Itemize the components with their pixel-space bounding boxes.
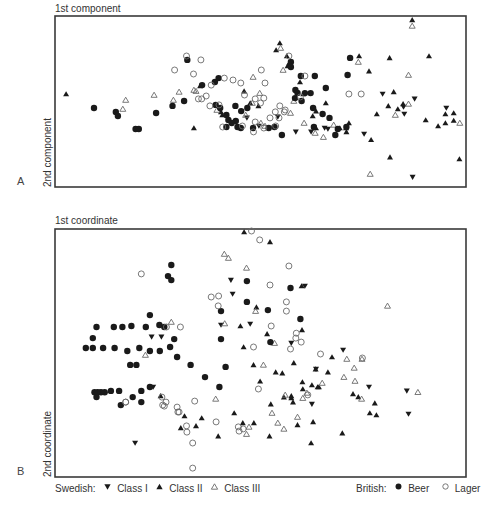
point-british-beer (232, 103, 238, 109)
point-british-beer (124, 348, 130, 354)
point-british-beer (130, 394, 136, 400)
point-swedish-class-ii (277, 40, 283, 45)
point-swedish-class-i (247, 322, 253, 327)
point-swedish-class-ii (395, 106, 401, 111)
legend-lager: Lager (455, 483, 481, 494)
point-swedish-class-ii (299, 379, 305, 384)
point-british-beer (111, 345, 117, 351)
point-swedish-class-ii (231, 410, 237, 415)
point-british-beer (111, 324, 117, 330)
point-british-beer (202, 374, 208, 380)
point-swedish-class-ii (297, 79, 303, 84)
point-british-lager (221, 75, 227, 81)
point-swedish-class-iii (168, 319, 174, 324)
point-british-lager (192, 398, 198, 404)
point-british-beer (222, 364, 228, 370)
panel-b-frame (55, 229, 466, 477)
legend-swedish: Swedish: Class I Class II Class III (55, 482, 260, 494)
point-british-lager (252, 96, 258, 102)
point-swedish-class-ii (241, 344, 247, 349)
point-british-lager (318, 351, 324, 357)
point-british-lager (359, 355, 365, 361)
point-swedish-class-ii (257, 379, 263, 384)
point-british-beer (90, 335, 96, 341)
point-swedish-class-ii (191, 125, 197, 130)
point-british-beer (147, 348, 153, 354)
point-swedish-class-iii (269, 410, 275, 415)
point-british-beer (223, 112, 229, 118)
point-swedish-class-iii (244, 265, 250, 270)
point-swedish-class-ii (368, 137, 374, 142)
point-british-lager (258, 67, 264, 73)
point-british-lager (286, 263, 292, 269)
point-swedish-class-ii (426, 53, 432, 58)
point-british-lager (283, 299, 289, 305)
point-swedish-class-ii (387, 55, 393, 60)
point-swedish-class-ii (251, 362, 257, 367)
point-swedish-class-iii (120, 106, 126, 111)
point-british-lager (138, 271, 144, 277)
point-swedish-class-ii (367, 410, 373, 415)
point-british-beer (168, 262, 174, 268)
point-swedish-class-iii (344, 356, 350, 361)
point-british-beer (93, 394, 99, 400)
point-british-lager (184, 423, 190, 429)
point-british-lager (208, 294, 214, 300)
point-british-lager (184, 429, 190, 435)
point-swedish-class-iii (151, 92, 157, 97)
point-swedish-class-iii (260, 362, 266, 367)
panel-a-frame (55, 16, 466, 187)
point-british-beer (310, 105, 316, 111)
point-british-lager (216, 293, 222, 299)
point-swedish-class-iii (123, 97, 129, 102)
point-swedish-class-ii (456, 156, 462, 161)
point-swedish-class-ii (350, 391, 356, 396)
legend-beer: Beer (408, 483, 429, 494)
point-swedish-class-iii (415, 389, 421, 394)
point-swedish-class-iii (170, 97, 176, 102)
point-british-beer (335, 126, 341, 132)
point-british-beer (323, 85, 329, 91)
point-swedish-class-i (401, 112, 407, 117)
point-british-lager (203, 93, 209, 99)
point-british-beer (297, 316, 303, 322)
point-swedish-class-i (412, 97, 418, 102)
point-swedish-class-i (309, 402, 315, 407)
point-british-beer (169, 103, 175, 109)
point-british-lager (262, 80, 268, 86)
point-swedish-class-ii (387, 154, 393, 159)
point-swedish-class-ii (310, 419, 316, 424)
point-swedish-class-iii (213, 396, 219, 401)
circle-open-icon (441, 482, 450, 491)
point-british-lager (298, 339, 304, 345)
point-british-lager (257, 237, 263, 243)
point-swedish-class-ii (323, 100, 329, 105)
point-british-lager (282, 107, 288, 113)
point-british-beer (307, 90, 313, 96)
point-british-lager (267, 115, 273, 121)
point-british-beer (215, 75, 221, 81)
point-swedish-class-iii (295, 414, 301, 419)
point-swedish-class-ii (442, 120, 448, 125)
point-british-beer (326, 115, 332, 121)
point-swedish-class-ii (310, 113, 316, 118)
point-british-beer (143, 324, 149, 330)
point-swedish-class-iii (282, 392, 288, 397)
point-swedish-class-i (361, 132, 367, 137)
point-swedish-class-iii (352, 378, 358, 383)
point-swedish-class-ii (409, 17, 415, 22)
point-swedish-class-iii (351, 365, 357, 370)
point-swedish-class-ii (264, 331, 270, 336)
point-swedish-class-ii (253, 304, 259, 309)
point-british-beer (136, 126, 142, 132)
point-swedish-class-iii (257, 90, 263, 95)
point-swedish-class-i (410, 175, 416, 180)
point-swedish-class-i (406, 412, 412, 417)
point-british-beer (311, 124, 317, 130)
legend-british-label: British: (356, 483, 387, 494)
point-british-beer (127, 362, 133, 368)
point-swedish-class-iii (367, 171, 373, 176)
point-british-lager (207, 103, 213, 109)
point-swedish-class-ii (442, 111, 448, 116)
point-british-lager (251, 344, 257, 350)
